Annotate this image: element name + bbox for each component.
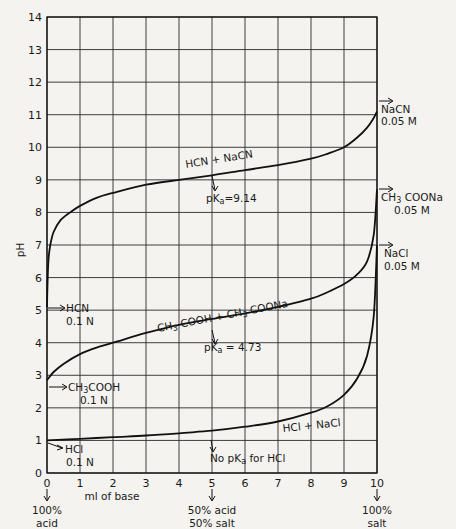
- y-tick-label: 5: [35, 304, 42, 317]
- y-tick-label: 3: [35, 369, 42, 382]
- naac-end-label: CH3 COONa: [381, 191, 443, 205]
- acetic-pka-label: pKa = 4.73: [204, 341, 261, 355]
- hcn-start-label: HCN: [66, 302, 89, 314]
- nacl-end-label: NaCl: [384, 247, 409, 259]
- nacl-end-conc: 0.05 M: [384, 260, 420, 272]
- y-tick-label: 4: [35, 337, 42, 350]
- x-tick-label: 1: [77, 477, 84, 490]
- hcn-pka-label: pKa=9.14: [206, 192, 257, 206]
- x-tick-label: 9: [341, 477, 348, 490]
- y-tick-label: 6: [35, 272, 42, 285]
- acetic-curve-label: CH3 COOH + CH3 COONa: [156, 297, 289, 336]
- naac-end-conc: 0.05 M: [394, 204, 430, 216]
- hcl-pka-label: No pKa for HCl: [210, 452, 285, 466]
- x-tick-label: 8: [308, 477, 315, 490]
- y-tick-label: 11: [28, 109, 42, 122]
- x-tick-label: 0: [44, 477, 51, 490]
- x5-label-2: 50% salt: [189, 517, 235, 529]
- y-tick-label: 2: [35, 402, 42, 415]
- hcn-start-conc: 0.1 N: [66, 315, 94, 327]
- x10-label-1: 100%: [362, 504, 392, 516]
- x-tick-label: 5: [209, 477, 216, 490]
- x-axis-ticks: 012345678910: [44, 477, 385, 490]
- x10-arrow: [374, 489, 380, 501]
- y-axis-label: pH: [14, 243, 26, 258]
- x-tick-label: 2: [110, 477, 117, 490]
- nacn-end-label: NaCN: [381, 103, 410, 115]
- hcl-start-marker: [48, 443, 63, 450]
- y-tick-label: 1: [35, 434, 42, 447]
- x10-label-2: salt: [368, 517, 387, 529]
- x-tick-label: 7: [275, 477, 282, 490]
- y-tick-label: 10: [28, 141, 42, 154]
- y-tick-label: 12: [28, 76, 42, 89]
- hcn-pka-arrow: [212, 176, 218, 191]
- x-tick-label: 6: [242, 477, 249, 490]
- x-tick-label: 4: [176, 477, 183, 490]
- acetic-start-marker: [49, 384, 67, 390]
- x0-label-1: 100%: [32, 504, 62, 516]
- y-tick-label: 13: [28, 44, 42, 57]
- x-tick-label: 10: [370, 477, 384, 490]
- x0-label-2: acid: [36, 517, 58, 529]
- hcl-pka-arrow: [210, 440, 216, 452]
- x5-arrow: [209, 489, 215, 501]
- hcl-start-label: HCl: [65, 443, 83, 455]
- y-tick-label: 9: [35, 174, 42, 187]
- hcl-start-conc: 0.1 N: [66, 456, 94, 468]
- x-tick-label: 3: [143, 477, 150, 490]
- y-tick-label: 0: [35, 467, 42, 480]
- y-tick-label: 7: [35, 239, 42, 252]
- acetic-start-conc: 0.1 N: [80, 394, 108, 406]
- y-tick-label: 14: [28, 11, 42, 24]
- nacn-end-conc: 0.05 M: [381, 115, 417, 127]
- x0-arrow: [44, 489, 50, 501]
- hcn-curve-label: HCN + NaCN: [184, 147, 253, 169]
- x-axis-label: ml of base: [85, 490, 140, 502]
- y-axis-ticks: 01234567891011121314: [28, 11, 42, 480]
- acetic-start-label: CH3COOH: [68, 381, 120, 395]
- x5-label-1: 50% acid: [188, 504, 236, 516]
- titration-chart: 01234567891011121314 012345678910 pH ml …: [0, 0, 456, 529]
- y-tick-label: 8: [35, 206, 42, 219]
